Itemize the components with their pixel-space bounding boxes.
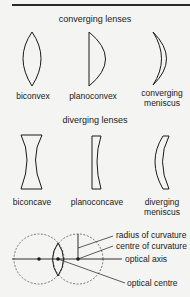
biconcave-lens-shape xyxy=(21,135,42,189)
optical-centre-label: optical centre xyxy=(127,278,178,288)
planoconcave-label: planoconcave xyxy=(67,197,127,207)
converging-meniscus-shape xyxy=(153,32,167,85)
converging-meniscus-label-line1: converging xyxy=(135,88,189,98)
planoconvex-label: planoconvex xyxy=(66,91,120,101)
diverging-meniscus-label-line1: diverging xyxy=(135,197,189,207)
radius-of-curvature-label: radius of curvature xyxy=(116,230,186,240)
diverging-meniscus-label-line2: meniscus xyxy=(135,207,189,217)
diverging-meniscus-label: diverging meniscus xyxy=(135,197,189,217)
biconcave-label: biconcave xyxy=(5,197,59,207)
lens-diagrams xyxy=(0,0,190,297)
biconvex-lens-shape xyxy=(23,32,41,86)
optical-axis-label: optical axis xyxy=(125,254,167,264)
converging-meniscus-label-line2: meniscus xyxy=(135,98,189,108)
curvature-construction xyxy=(12,234,125,284)
diverging-heading: diverging lenses xyxy=(0,115,190,125)
planoconvex-lens-shape xyxy=(89,32,106,86)
biconvex-label: biconvex xyxy=(6,91,60,101)
diverging-meniscus-shape xyxy=(155,136,169,189)
converging-meniscus-label: converging meniscus xyxy=(135,88,189,108)
centre-of-curvature-label: centre of curvature xyxy=(116,241,187,251)
planoconcave-lens-shape xyxy=(92,136,101,189)
